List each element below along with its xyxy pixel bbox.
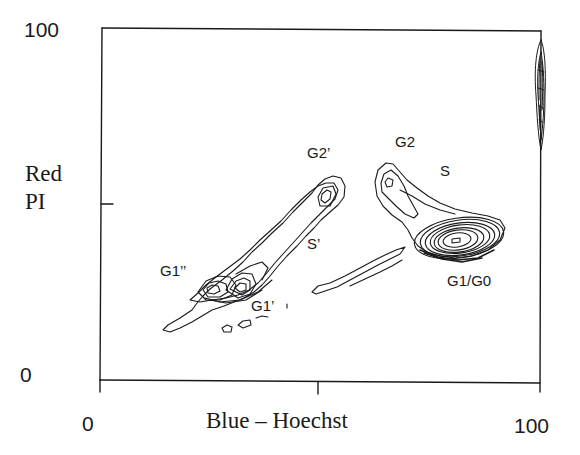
contour-plot	[0, 0, 580, 455]
left-cluster-contours	[163, 176, 345, 332]
plot-frame	[100, 28, 541, 394]
right-cluster-contours	[312, 163, 506, 294]
